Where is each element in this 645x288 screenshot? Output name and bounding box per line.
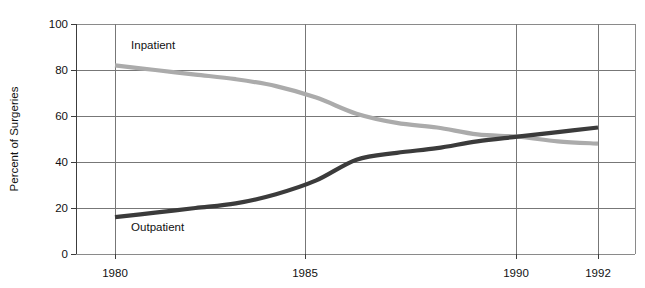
x-axis-tick-marks xyxy=(115,254,598,259)
data-series-group xyxy=(115,65,598,217)
x-tick-label: 1985 xyxy=(292,267,318,279)
y-tick-label: 20 xyxy=(55,202,68,214)
y-axis-tick-marks xyxy=(71,24,76,254)
y-tick-label: 40 xyxy=(55,156,68,168)
x-tick-label: 1980 xyxy=(102,267,128,279)
y-tick-label: 0 xyxy=(62,248,68,260)
inpatient-label: Inpatient xyxy=(131,39,176,51)
y-tick-label: 100 xyxy=(49,18,68,30)
y-axis-title-text: Percent of Surgeries xyxy=(8,86,20,191)
x-axis-tick-labels: 1980 1985 1990 1992 xyxy=(102,267,611,279)
outpatient-label: Outpatient xyxy=(131,221,185,233)
percent-of-surgeries-line-chart: Percent of Surgeries 100 80 60 40 20 0 xyxy=(0,0,645,288)
chart-container: Percent of Surgeries 100 80 60 40 20 0 xyxy=(0,0,645,288)
outpatient-line xyxy=(115,128,598,218)
y-axis-title: Percent of Surgeries xyxy=(8,86,20,191)
y-axis-tick-labels: 100 80 60 40 20 0 xyxy=(49,18,68,260)
y-tick-label: 80 xyxy=(55,64,68,76)
x-tick-label: 1992 xyxy=(585,267,611,279)
y-tick-label: 60 xyxy=(55,110,68,122)
x-tick-label: 1990 xyxy=(503,267,529,279)
inpatient-line xyxy=(115,65,598,143)
